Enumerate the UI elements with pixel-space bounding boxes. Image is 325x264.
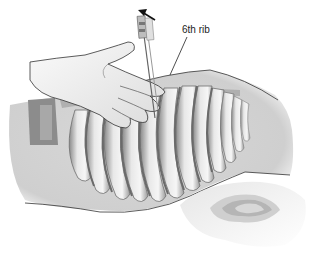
rib-label-leader xyxy=(170,37,187,75)
thoracocentesis-illustration: 6th rib xyxy=(0,0,325,264)
illustration-svg xyxy=(0,0,325,264)
sixth-rib-label: 6th rib xyxy=(182,24,210,35)
